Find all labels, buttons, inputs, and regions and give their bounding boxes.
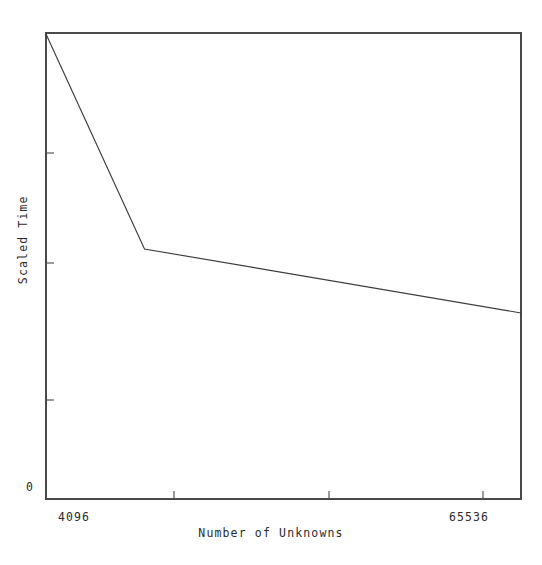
plot-canvas — [0, 0, 542, 565]
y-axis-zero-tick-label: 0 — [26, 482, 34, 494]
x-axis-min-tick-label: 4096 — [58, 512, 90, 524]
chart-figure: 4096 65536 0 Number of Unknowns Scaled T… — [0, 0, 542, 565]
data-series-scaled-time — [46, 34, 521, 313]
y-axis-title: Scaled Time — [18, 185, 30, 295]
x-axis-ticks — [174, 491, 483, 499]
axes-frame — [46, 33, 521, 499]
x-axis-max-tick-label: 65536 — [449, 512, 489, 524]
x-axis-title: Number of Unknowns — [0, 528, 542, 540]
y-axis-ticks — [46, 153, 54, 400]
